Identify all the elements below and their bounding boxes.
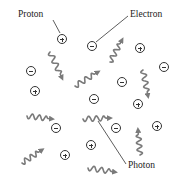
proton-leader-line — [53, 20, 60, 33]
photon-label: Photon — [128, 161, 155, 171]
proton-plus-icon — [57, 34, 67, 44]
proton-plus-icon — [133, 99, 143, 109]
diagram-canvas — [0, 0, 188, 181]
photon-wavy-arrow-icon — [22, 150, 42, 164]
photon-layer — [22, 40, 149, 173]
photon-wavy-arrow-icon — [141, 70, 149, 96]
proton-plus-icon — [60, 150, 70, 160]
electron-minus-icon — [87, 41, 97, 51]
photon-wavy-arrow-icon — [136, 130, 142, 155]
photon-wavy-arrow-icon — [88, 166, 115, 173]
electron-minus-icon — [51, 123, 61, 133]
electron-label: Electron — [130, 10, 162, 20]
plasma-diagram: Proton Electron Photon — [0, 0, 188, 181]
electron-minus-icon — [89, 94, 99, 104]
photon-wavy-arrow-icon — [27, 114, 52, 120]
proton-plus-icon — [30, 86, 40, 96]
photon-wavy-arrow-icon — [75, 72, 98, 87]
photon-wavy-arrow-icon — [110, 40, 122, 62]
electron-leader-line — [96, 16, 128, 42]
proton-plus-icon — [86, 140, 96, 150]
photon-wavy-arrow-icon — [83, 116, 110, 122]
electron-minus-icon — [111, 123, 121, 133]
proton-plus-icon — [135, 43, 145, 53]
electron-minus-icon — [117, 77, 127, 87]
electron-minus-icon — [159, 62, 169, 72]
proton-plus-icon — [152, 121, 162, 131]
photon-wavy-arrow-icon — [49, 52, 63, 78]
electron-minus-icon — [26, 66, 36, 76]
proton-label: Proton — [18, 10, 43, 20]
